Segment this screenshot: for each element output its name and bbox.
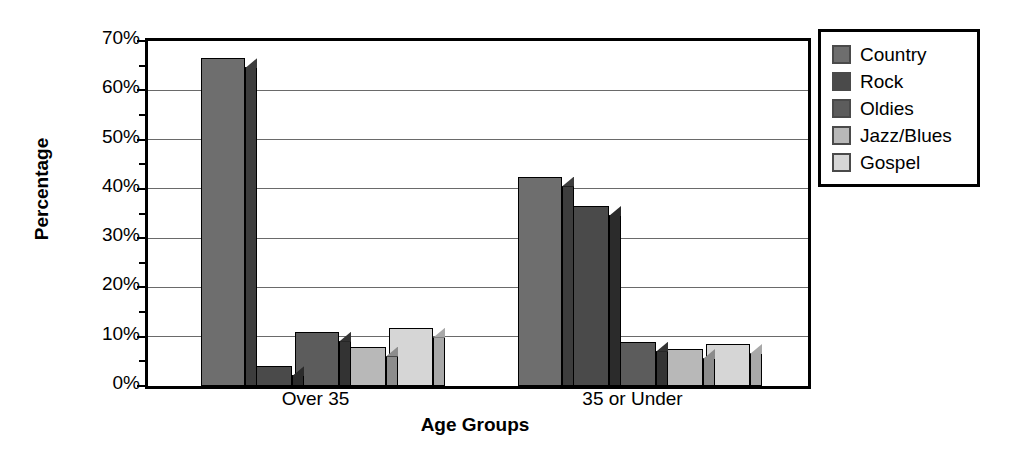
legend-item-jazz-blues[interactable]: Jazz/Blues	[832, 122, 977, 149]
bar-country-35-or-under	[518, 177, 562, 386]
y-axis-tick-label: 10%	[70, 324, 140, 343]
y-axis-tick-labels: 0%10%20%30%40%50%60%70%	[62, 0, 140, 458]
bar-side-face	[562, 186, 574, 386]
bar-side-face	[339, 341, 351, 386]
y-axis-minor-tick	[139, 163, 148, 165]
legend-item-country[interactable]: Country	[832, 41, 977, 68]
legend-item-rock[interactable]: Rock	[832, 68, 977, 95]
x-axis-tick-label: 35 or Under	[533, 388, 733, 410]
legend-item-label: Jazz/Blues	[860, 126, 952, 145]
bar-side-face	[750, 353, 762, 386]
bar-side-face	[703, 358, 715, 386]
y-axis-minor-tick	[139, 311, 148, 313]
y-axis-major-tick	[137, 385, 148, 387]
chart-legend: CountryRockOldiesJazz/BluesGospel	[818, 29, 980, 187]
legend-swatch-icon	[832, 72, 851, 91]
y-axis-major-tick	[137, 237, 148, 239]
plot-area	[145, 38, 811, 389]
y-axis-tick-label: 0%	[70, 373, 140, 392]
y-axis-major-tick	[137, 286, 148, 288]
legend-item-label: Gospel	[860, 153, 920, 172]
legend-item-label: Country	[860, 45, 927, 64]
y-axis-tick-label: 50%	[70, 127, 140, 146]
bar-front-face	[518, 177, 562, 386]
bar-side-face	[245, 67, 257, 386]
bar-side-face	[656, 351, 668, 386]
y-axis-tick-label: 30%	[70, 225, 140, 244]
y-axis-major-tick	[137, 336, 148, 338]
bar-top-bevel	[245, 58, 257, 68]
y-axis-tick-label: 60%	[70, 77, 140, 96]
bar-side-face	[292, 375, 304, 386]
bar-side-face	[433, 337, 445, 386]
y-axis-minor-tick	[139, 114, 148, 116]
y-axis-tick-label: 40%	[70, 176, 140, 195]
bar-front-face	[201, 58, 245, 386]
legend-item-label: Oldies	[860, 99, 914, 118]
y-axis-major-tick	[137, 89, 148, 91]
y-axis-major-tick	[137, 40, 148, 42]
plot-inner	[148, 41, 808, 386]
legend-swatch-icon	[832, 99, 851, 118]
y-axis-major-tick	[137, 188, 148, 190]
y-axis-title: Percentage	[31, 109, 53, 269]
x-axis-tick-label: Over 35	[216, 388, 416, 410]
legend-item-oldies[interactable]: Oldies	[832, 95, 977, 122]
bar-side-face	[609, 215, 621, 386]
bar-side-face	[386, 356, 398, 386]
y-axis-minor-tick	[139, 262, 148, 264]
legend-swatch-icon	[832, 45, 851, 64]
y-axis-minor-tick	[139, 213, 148, 215]
y-axis-major-tick	[137, 139, 148, 141]
legend-swatch-icon	[832, 126, 851, 145]
y-axis-tick-label: 20%	[70, 274, 140, 293]
legend-item-gospel[interactable]: Gospel	[832, 149, 977, 176]
legend-swatch-icon	[832, 153, 851, 172]
y-axis-minor-tick	[139, 360, 148, 362]
chart-page: Percentage 0%10%20%30%40%50%60%70% Over …	[0, 0, 1010, 458]
legend-item-label: Rock	[860, 72, 903, 91]
y-axis-tick-label: 70%	[70, 28, 140, 47]
y-axis-minor-tick	[139, 65, 148, 67]
x-axis-title: Age Groups	[145, 414, 805, 436]
bar-country-over-35	[201, 58, 245, 386]
